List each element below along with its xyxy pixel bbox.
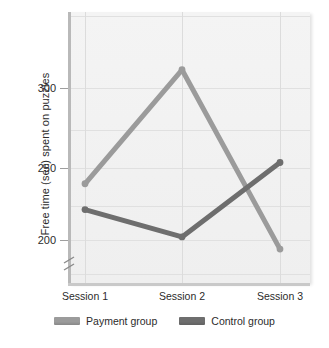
legend: Payment group Control group	[0, 315, 329, 327]
y-tick-mark	[60, 88, 68, 89]
legend-swatch-icon	[54, 317, 80, 325]
data-point-marker	[82, 206, 89, 213]
legend-label: Control group	[211, 315, 275, 327]
legend-entry-payment-group: Payment group	[54, 315, 157, 327]
data-point-marker	[179, 234, 186, 241]
legend-swatch-icon	[179, 317, 205, 325]
x-axis-spine	[68, 283, 310, 286]
series-line-segment	[182, 70, 280, 249]
plot-area	[70, 12, 310, 283]
y-tick-mark	[60, 168, 68, 169]
line-chart-figure: Free time (sec) spent on puzzles 300	[0, 0, 329, 348]
y-tick-label-200: 200	[12, 234, 56, 246]
x-tick-label-session-1: Session 1	[40, 290, 130, 302]
data-point-marker	[179, 66, 186, 73]
series-container	[70, 12, 310, 283]
y-tick-label-250: 250	[12, 162, 56, 174]
data-point-marker	[82, 180, 89, 187]
axis-break-icon	[62, 254, 78, 276]
y-tick-label-300: 300	[12, 82, 56, 94]
series-line-segment	[85, 210, 182, 237]
y-tick-mark	[60, 240, 68, 241]
x-tick-label-session-3: Session 3	[235, 290, 325, 302]
data-point-marker	[277, 246, 284, 253]
legend-entry-control-group: Control group	[179, 315, 275, 327]
data-point-marker	[277, 159, 284, 166]
y-axis-spine	[68, 12, 71, 283]
series-line-segment	[85, 70, 182, 184]
x-tick-label-session-2: Session 2	[137, 290, 227, 302]
legend-label: Payment group	[86, 315, 157, 327]
